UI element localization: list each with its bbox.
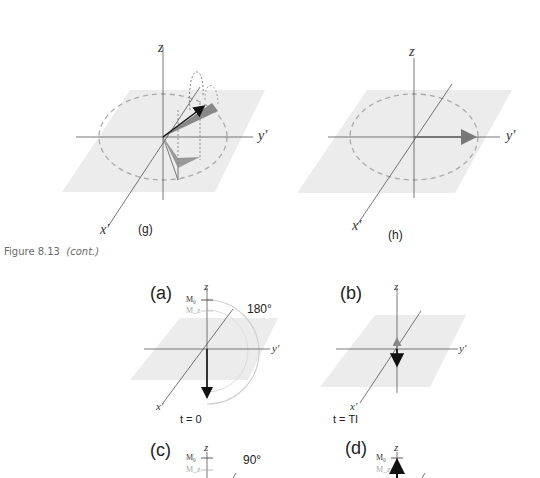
x-axis-label-b: x′ (350, 400, 357, 412)
caption-prefix: Figure 8.13 (4, 246, 60, 257)
x-axis-label-a: x′ (156, 400, 163, 412)
flip-angle-a: 180° (247, 302, 272, 316)
transverse-plane (297, 90, 512, 193)
panel-c-diagram (201, 452, 236, 478)
mz-label-d: M_z (376, 465, 391, 474)
m0-label-d: M₀ (376, 453, 386, 462)
time-label-a: t = 0 (180, 413, 202, 425)
y-axis-label-h: y′ (506, 128, 515, 144)
panel-label-h: (h) (388, 228, 403, 242)
figure-caption: Figure 8.13 (cont.) (4, 246, 99, 257)
panel-b-diagram (320, 288, 466, 403)
mz-label-c: M_z (186, 465, 201, 474)
panel-g-diagram (62, 47, 265, 225)
x-axis-label-g: x′ (100, 222, 109, 238)
flip-angle-c: 90° (243, 453, 261, 467)
y-axis-label-b: y′ (459, 342, 466, 354)
transverse-plane (62, 90, 265, 192)
mz-label-a: M_z (186, 306, 201, 315)
caption-suffix: (cont.) (66, 246, 99, 257)
y-axis-label-g: y′ (258, 128, 267, 144)
figure-canvas (0, 0, 540, 478)
m0-label-c: M₀ (186, 453, 196, 462)
x-axis-label-h: x′ (352, 218, 361, 234)
z-axis-label-a: z (204, 280, 208, 292)
panel-label-a: (a) (150, 283, 172, 304)
z-axis-label-d: z (394, 441, 398, 453)
panel-d-diagram (391, 452, 425, 478)
transverse-plane (320, 315, 466, 387)
z-axis-label-g: z (158, 40, 163, 56)
y-axis-label-a: y′ (272, 342, 279, 354)
panel-h-diagram (297, 58, 512, 225)
z-axis-label-h: z (409, 44, 414, 60)
panel-label-b: (b) (340, 283, 362, 304)
time-label-b: t = TI (333, 413, 358, 425)
z-axis-label-c: z (204, 441, 208, 453)
panel-label-d: (d) (345, 438, 367, 459)
m0-label-a: M₀ (186, 295, 196, 304)
panel-label-c: (c) (150, 440, 171, 461)
panel-label-g: (g) (138, 222, 153, 236)
z-axis-label-b: z (394, 280, 398, 292)
